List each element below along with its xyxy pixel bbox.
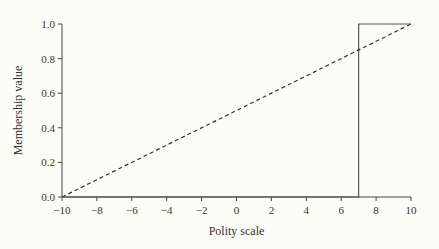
membership-chart: 0.00.20.40.60.81.0−10−8−6−4−20246810 Pol… xyxy=(0,0,439,249)
x-tick-label: −6 xyxy=(126,204,138,216)
x-tick-label: 2 xyxy=(269,204,275,216)
x-tick-label: 4 xyxy=(304,204,310,216)
plot-area xyxy=(62,24,411,197)
y-tick-label: 0.0 xyxy=(41,191,55,203)
x-tick-label: 10 xyxy=(406,204,418,216)
x-tick-label: −8 xyxy=(91,204,103,216)
y-axis-title: Membership value xyxy=(11,66,25,156)
x-tick-label: 6 xyxy=(338,204,344,216)
x-tick-label: −2 xyxy=(196,204,208,216)
y-tick-label: 0.8 xyxy=(41,53,55,65)
x-axis-title: Polity scale xyxy=(209,224,265,238)
axes: 0.00.20.40.60.81.0−10−8−6−4−20246810 xyxy=(41,18,417,216)
x-tick-label: −10 xyxy=(53,204,71,216)
x-tick-label: 0 xyxy=(234,204,240,216)
y-tick-label: 0.6 xyxy=(41,87,55,99)
x-tick-label: −4 xyxy=(161,204,173,216)
y-tick-label: 1.0 xyxy=(41,18,55,30)
y-tick-label: 0.4 xyxy=(41,122,55,134)
y-tick-label: 0.2 xyxy=(41,156,55,168)
x-tick-label: 8 xyxy=(373,204,379,216)
